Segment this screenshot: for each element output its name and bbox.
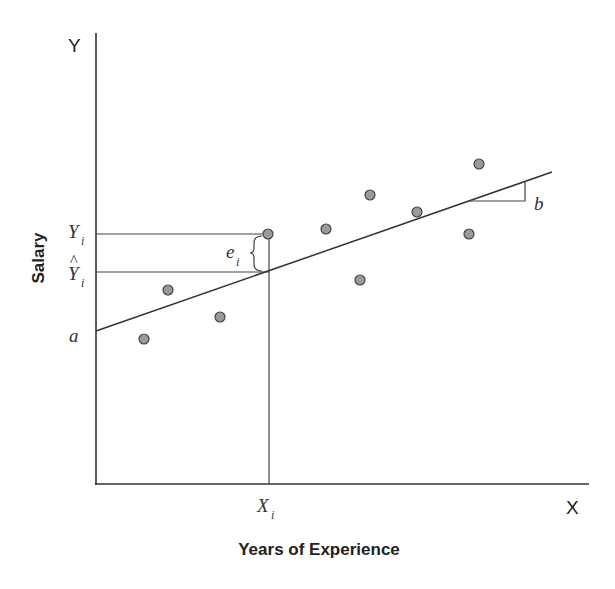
label-observed-yi: Y i (68, 221, 84, 248)
svg-text:i: i (81, 276, 84, 290)
data-point (365, 190, 375, 200)
data-point (163, 285, 173, 295)
data-point (464, 229, 474, 239)
y-axis-letter: Y (68, 35, 81, 56)
svg-text:X: X (256, 495, 270, 516)
svg-text:Y: Y (68, 221, 81, 242)
data-point (321, 224, 331, 234)
svg-text:e: e (226, 241, 234, 262)
regression-line (96, 172, 552, 331)
svg-text:i: i (271, 508, 274, 522)
svg-text:i: i (236, 255, 239, 269)
data-point (139, 334, 149, 344)
svg-text:Y: Y (68, 263, 81, 284)
y-axis-title: Salary (29, 232, 48, 284)
label-predicted-yi: ^ Y i (68, 252, 84, 290)
label-intercept-a: a (69, 325, 79, 346)
label-residual-ei: e i (226, 241, 239, 269)
residual-brace-icon (250, 236, 262, 271)
data-point (412, 207, 422, 217)
x-axis-letter: X (566, 497, 579, 518)
data-point (355, 275, 365, 285)
regression-diagram: Y X Years of Experience Salary Y i ^ Y i… (0, 0, 615, 589)
svg-text:i: i (81, 234, 84, 248)
data-point (474, 159, 484, 169)
data-points (139, 159, 484, 344)
label-xi: X i (256, 495, 274, 522)
data-point (215, 312, 225, 322)
label-slope-b: b (534, 193, 544, 214)
x-axis-title: Years of Experience (238, 540, 400, 559)
data-point-observed-yi (263, 229, 273, 239)
